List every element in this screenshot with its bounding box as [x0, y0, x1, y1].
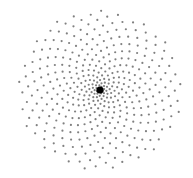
- dot: [144, 148, 146, 150]
- dot: [158, 138, 160, 140]
- dot: [22, 108, 24, 110]
- dot: [82, 70, 84, 72]
- dot: [69, 131, 71, 133]
- dot: [128, 144, 130, 146]
- dot: [72, 25, 74, 27]
- dot: [49, 48, 51, 50]
- dot: [93, 135, 95, 137]
- dot: [113, 77, 115, 79]
- dot: [58, 113, 60, 115]
- dot: [95, 165, 97, 167]
- dot: [44, 146, 46, 148]
- dot: [113, 106, 115, 108]
- dot: [148, 113, 150, 115]
- dot: [170, 105, 172, 107]
- dot: [100, 10, 102, 12]
- dot: [144, 72, 146, 74]
- dot: [36, 124, 38, 126]
- dot: [82, 99, 84, 101]
- dot: [117, 71, 119, 73]
- dot: [66, 82, 68, 84]
- dot: [129, 79, 131, 81]
- dot: [145, 32, 147, 34]
- dot: [78, 55, 80, 57]
- dot: [62, 57, 64, 59]
- dot: [107, 31, 109, 33]
- dot: [45, 122, 47, 124]
- dot: [148, 66, 150, 68]
- dot: [114, 127, 116, 129]
- dot: [105, 127, 107, 129]
- dot: [62, 71, 64, 73]
- dot: [71, 117, 73, 119]
- dot: [105, 90, 107, 92]
- dot: [108, 82, 110, 84]
- dot: [83, 104, 85, 106]
- dot: [153, 130, 155, 132]
- dot: [114, 95, 116, 97]
- dot: [126, 106, 128, 108]
- dot: [120, 43, 122, 45]
- dot: [113, 44, 115, 46]
- dot: [110, 37, 112, 39]
- dot: [100, 67, 102, 69]
- dot: [85, 109, 87, 111]
- dot: [88, 74, 90, 76]
- dot: [128, 72, 130, 74]
- dot: [75, 153, 77, 155]
- dot: [137, 129, 139, 131]
- dot: [34, 132, 36, 134]
- dot: [88, 98, 90, 100]
- dot: [123, 83, 125, 85]
- dot: [154, 72, 156, 74]
- dot: [102, 147, 104, 149]
- dot: [55, 119, 57, 121]
- dot: [128, 50, 130, 52]
- dot: [42, 109, 44, 111]
- dot: [80, 110, 82, 112]
- dot: [95, 65, 97, 67]
- dot: [47, 57, 49, 59]
- dot: [104, 82, 106, 84]
- dot: [103, 92, 105, 94]
- dot: [33, 51, 35, 53]
- dot: [41, 49, 43, 51]
- dot: [109, 122, 111, 124]
- dot: [54, 64, 56, 66]
- dot: [136, 94, 138, 96]
- dot: [53, 142, 55, 144]
- dot: [91, 59, 93, 61]
- dot: [88, 84, 90, 86]
- dot: [89, 144, 91, 146]
- dot: [54, 150, 56, 152]
- dot: [99, 34, 101, 36]
- dot: [118, 82, 120, 84]
- dot: [113, 81, 115, 83]
- dot: [110, 97, 112, 99]
- dot: [94, 104, 96, 106]
- dot: [46, 65, 48, 67]
- dot: [127, 57, 129, 59]
- dot: [104, 63, 106, 65]
- dot: [88, 88, 90, 90]
- dot: [139, 122, 141, 124]
- dot: [155, 121, 157, 123]
- dot: [80, 19, 82, 21]
- dot: [170, 80, 172, 82]
- dot: [68, 109, 70, 111]
- dot: [136, 37, 138, 39]
- dot: [133, 107, 135, 109]
- dot: [64, 153, 66, 155]
- dot: [82, 75, 84, 77]
- dot: [68, 42, 70, 44]
- dot: [114, 51, 116, 53]
- dot: [125, 64, 127, 66]
- dot: [125, 119, 127, 121]
- dot: [44, 39, 46, 41]
- dot: [43, 84, 45, 86]
- dot: [141, 138, 143, 140]
- dot: [119, 64, 121, 66]
- dot: [154, 84, 156, 86]
- dot: [89, 159, 91, 161]
- dot: [24, 65, 26, 67]
